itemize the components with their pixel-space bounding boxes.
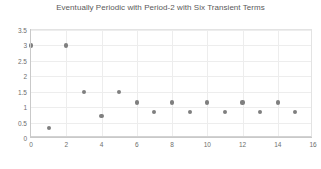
data-point	[240, 100, 244, 104]
data-point	[47, 126, 51, 130]
x-axis-tick-label: 12	[239, 141, 246, 148]
chart-container: Eventually Periodic with Period-2 with S…	[0, 0, 321, 169]
data-point	[82, 90, 86, 94]
y-axis-tick-label: 3.5	[18, 27, 27, 34]
plot-area: 00.511.522.533.5 0246810121416	[30, 29, 312, 137]
y-axis-tick-label: 2	[23, 73, 27, 80]
y-axis-tick-label: 1	[23, 104, 27, 111]
gridline-vertical	[102, 30, 103, 136]
x-axis-tick-label: 14	[274, 141, 281, 148]
gridline-horizontal	[31, 92, 311, 93]
y-axis-tick-label: 2.5	[18, 57, 27, 64]
data-point	[258, 110, 262, 114]
gridline-horizontal	[31, 107, 311, 108]
data-point	[64, 43, 68, 47]
gridline-vertical	[172, 30, 173, 136]
data-point	[117, 90, 121, 94]
data-point	[152, 110, 156, 114]
data-point	[135, 100, 139, 104]
x-axis-line	[30, 137, 312, 138]
y-axis-tick-label: 0.5	[18, 119, 27, 126]
y-axis-line	[30, 29, 31, 137]
data-point	[170, 100, 174, 104]
data-point	[188, 110, 192, 114]
data-point	[99, 114, 103, 118]
gridline-horizontal	[31, 30, 311, 31]
x-axis-tick-label: 4	[100, 141, 104, 148]
chart-title: Eventually Periodic with Period-2 with S…	[0, 3, 321, 12]
y-axis-tick-label: 3	[23, 42, 27, 49]
gridline-vertical	[243, 30, 244, 136]
gridline-horizontal	[31, 45, 311, 46]
x-axis-tick-label: 0	[29, 141, 33, 148]
x-axis-tick-label: 2	[64, 141, 68, 148]
gridline-vertical	[278, 30, 279, 136]
data-point	[293, 110, 297, 114]
x-axis-tick-label: 16	[309, 141, 316, 148]
gridline-vertical	[207, 30, 208, 136]
data-point	[223, 110, 227, 114]
gridline-horizontal	[31, 61, 311, 62]
gridline-horizontal	[31, 76, 311, 77]
data-point	[205, 100, 209, 104]
x-axis-tick-label: 10	[204, 141, 211, 148]
y-axis-tick-label: 0	[23, 135, 27, 142]
x-axis-tick-label: 6	[135, 141, 139, 148]
data-point	[276, 100, 280, 104]
x-axis-tick-label: 8	[170, 141, 174, 148]
gridline-horizontal	[31, 123, 311, 124]
y-axis-tick-label: 1.5	[18, 88, 27, 95]
gridline-vertical	[137, 30, 138, 136]
